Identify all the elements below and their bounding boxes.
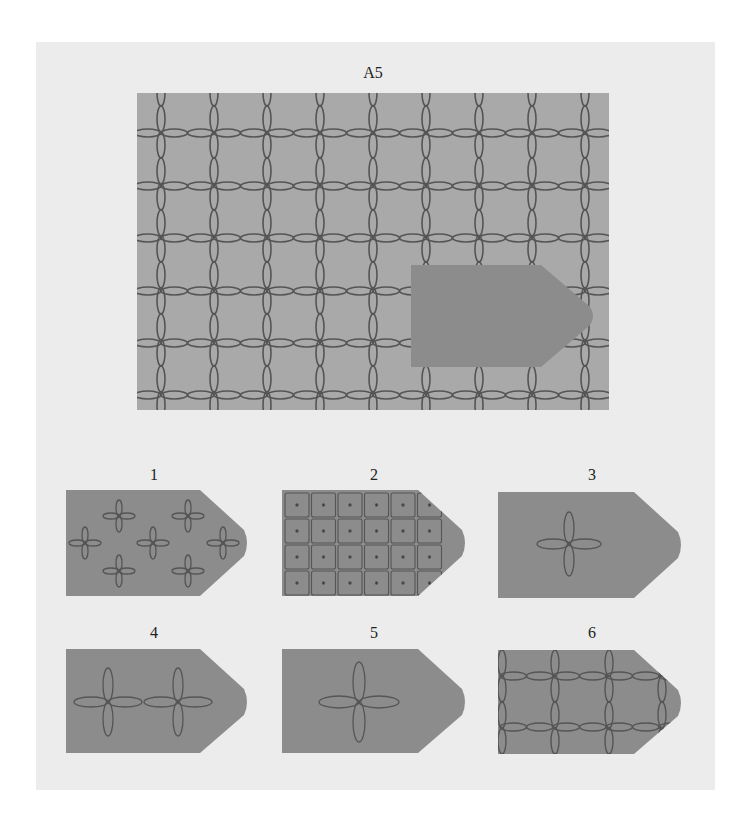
option-1-label: 1	[150, 466, 158, 483]
option-4-label: 4	[150, 624, 158, 641]
option-3-label: 3	[588, 466, 596, 483]
puzzle-figure: A5 1 2 3 4 5 6	[0, 0, 748, 816]
main-pattern-grid	[135, 80, 665, 444]
option-5-label: 5	[370, 624, 378, 641]
main-figure-label: A5	[363, 64, 383, 81]
option-2-label: 2	[370, 466, 378, 483]
option-6-label: 6	[588, 624, 596, 641]
